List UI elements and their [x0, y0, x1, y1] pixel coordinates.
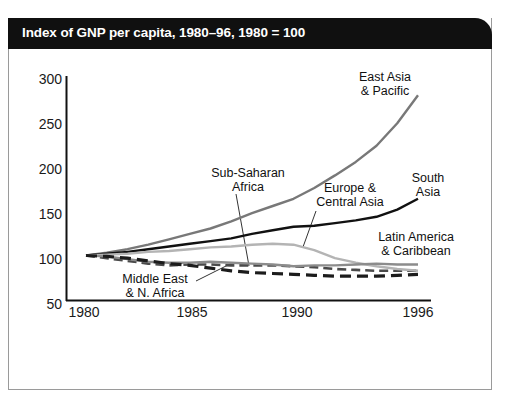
plot-area [0, 0, 505, 399]
leader-line-europe [303, 211, 316, 247]
series-line-latin-america-caribbean [86, 256, 418, 267]
figure-container: Index of GNP per capita, 1980–96, 1980 =… [0, 0, 505, 399]
leader-line-sub-saharan [236, 194, 249, 266]
series-line-east-asia-pacific [86, 95, 418, 255]
series-layer [86, 95, 418, 276]
